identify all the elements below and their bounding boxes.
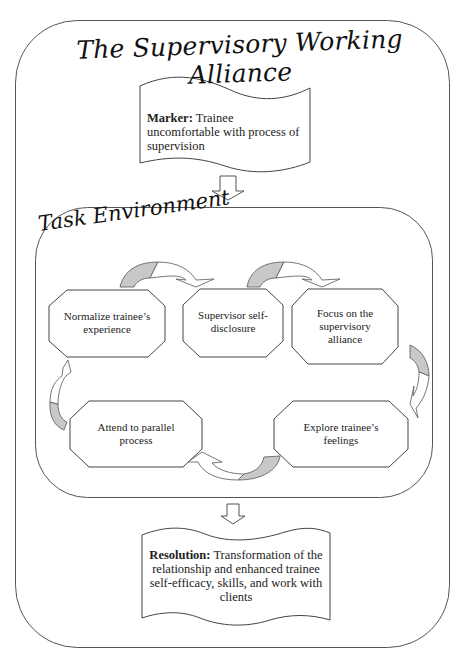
resolution-label: Resolution: — [149, 548, 210, 562]
step-attend: Attend to parallel process — [84, 404, 188, 464]
step-normalize: Normalize trainee’s experience — [55, 293, 159, 353]
curved-arrow-icon — [247, 262, 340, 287]
step-explore: Explore trainee’s feelings — [286, 404, 396, 464]
curved-arrow-icon — [50, 360, 71, 430]
diagram-canvas: The Supervisory Working Alliance Marker:… — [0, 0, 464, 664]
down-arrow-icon — [221, 504, 245, 524]
step-focus: Focus on the supervisory alliance — [302, 292, 388, 360]
step-disclosure: Supervisor self-disclosure — [190, 292, 276, 352]
curved-arrow-icon — [410, 345, 429, 418]
marker-label: Marker: — [147, 111, 193, 125]
curved-arrow-icon — [188, 452, 280, 480]
marker-text: Marker: Trainee uncomfortable with proce… — [147, 111, 307, 153]
resolution-text: Resolution: Transformation of the relati… — [148, 548, 324, 604]
curved-arrow-icon — [120, 262, 214, 287]
